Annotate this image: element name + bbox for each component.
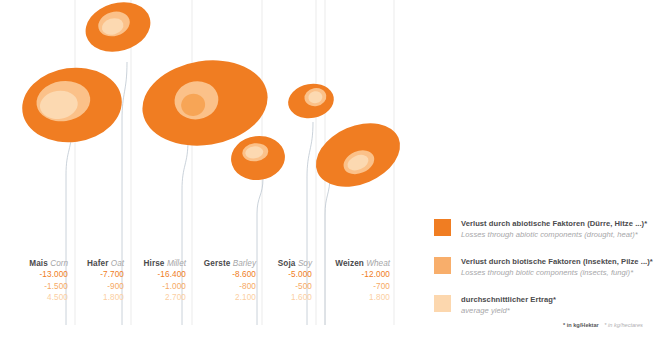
legend-label-en: Losses through abiotic components (droug… [461, 229, 665, 240]
footnote-en: * in kg/hectares [604, 322, 643, 328]
crop-name-en: Wheat [366, 259, 390, 268]
value-abiotic: -5.000 [250, 269, 312, 280]
crop-name-de: Hafer [87, 259, 108, 268]
footnote: * in kg/Hektar * in kg/hectares [563, 322, 643, 328]
bubble-hafer [80, 0, 157, 59]
value-biotic: -500 [250, 281, 312, 292]
legend-text-abiotic: Verlust durch abiotische Faktoren (Dürre… [461, 218, 665, 240]
bubble-weizen [306, 111, 410, 199]
value-biotic: -1.000 [112, 281, 186, 292]
legend-swatch-yield [434, 295, 451, 312]
crop-name-de: Weizen [335, 259, 364, 268]
crop-name-de: Hirse [144, 259, 165, 268]
value-abiotic: -8.600 [178, 269, 256, 280]
legend-swatch-abiotic [434, 219, 451, 236]
value-yield: 2.100 [178, 292, 256, 303]
legend-label-de: durchschnittlicher Ertrag* [461, 294, 665, 305]
legend-swatch-biotic [434, 257, 451, 274]
value-biotic: -700 [308, 281, 390, 292]
crop-name-de: Mais [29, 259, 48, 268]
crop-name-gerste: Gerste Barley [178, 258, 256, 269]
crop-name-hirse: Hirse Millet [112, 258, 186, 269]
column-weizen: Weizen Wheat -12.000 -700 1.800 [308, 258, 390, 303]
column-hirse: Hirse Millet -16.400 -1.000 2.700 [112, 258, 186, 303]
footnote-de: * in kg/Hektar [563, 322, 599, 328]
column-soja: Soja Soy -5.000 -500 1.600 [250, 258, 312, 303]
crop-name-de: Gerste [204, 259, 231, 268]
value-yield: 2.700 [112, 292, 186, 303]
bubble-glyphs [0, 0, 420, 361]
legend-label-de: Verlust durch abiotische Faktoren (Dürre… [461, 218, 665, 229]
bubble-soja [285, 80, 336, 121]
legend-label-en: Losses through biotic components (insect… [461, 267, 665, 278]
value-yield: 1.800 [308, 292, 390, 303]
crop-name-de: Soja [278, 259, 296, 268]
value-abiotic: -16.400 [112, 269, 186, 280]
bubble-chart-area: Mais Corn -13.000 -1.500 4.500 Hafer Oat… [0, 0, 420, 361]
bubble-mais [17, 61, 126, 148]
legend-item-biotic: Verlust durch biotische Faktoren (Insekt… [434, 256, 665, 281]
value-yield: 1.600 [250, 292, 312, 303]
column-gerste: Gerste Barley -8.600 -800 2.100 [178, 258, 256, 303]
legend-label-en: average yield* [461, 305, 665, 316]
value-abiotic: -12.000 [308, 269, 390, 280]
value-biotic: -800 [178, 281, 256, 292]
legend: Verlust durch abiotische Faktoren (Dürre… [434, 218, 665, 332]
crop-name-soja: Soja Soy [250, 258, 312, 269]
legend-text-yield: durchschnittlicher Ertrag* average yield… [461, 294, 665, 316]
legend-item-yield: durchschnittlicher Ertrag* average yield… [434, 294, 665, 319]
legend-label-de: Verlust durch biotische Faktoren (Insekt… [461, 256, 665, 267]
legend-text-biotic: Verlust durch biotische Faktoren (Insekt… [461, 256, 665, 278]
legend-item-abiotic: Verlust durch abiotische Faktoren (Dürre… [434, 218, 665, 243]
crop-name-weizen: Weizen Wheat [308, 258, 390, 269]
bubble-gerste [229, 133, 288, 183]
